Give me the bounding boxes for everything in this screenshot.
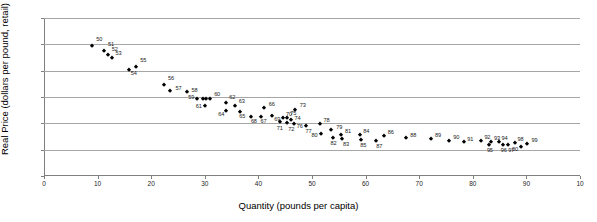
data-point <box>479 139 484 144</box>
data-point-label: 61 <box>196 104 202 110</box>
data-point-label: 79 <box>336 125 342 131</box>
data-point-label: 62 <box>229 95 235 101</box>
data-point-label: 96 <box>501 148 507 154</box>
x-tick-label: 80 <box>458 180 488 187</box>
data-point-label: 94 <box>502 136 508 142</box>
data-point <box>318 132 323 137</box>
x-tick-mark <box>526 176 527 179</box>
data-point-label: 54 <box>131 71 137 77</box>
data-point-label: 80 <box>312 133 318 139</box>
x-tick-label: 60 <box>351 180 381 187</box>
data-point-label: 00 <box>512 147 518 153</box>
data-point-label: 76 <box>297 124 303 130</box>
data-point-label: 85 <box>360 143 366 149</box>
data-point-label: 89 <box>435 133 441 139</box>
x-tick-label: 0 <box>29 180 59 187</box>
data-point <box>261 106 266 111</box>
data-point-label: 83 <box>343 142 349 148</box>
x-tick-mark <box>44 176 45 179</box>
x-tick-mark <box>419 176 420 179</box>
x-axis-title: Quantity (pounds per capita) <box>0 200 597 212</box>
data-point-label: 95 <box>487 148 493 154</box>
x-tick-mark <box>312 176 313 179</box>
data-point <box>447 138 452 143</box>
x-tick-label: 50 <box>297 180 327 187</box>
chart-canvas: Real Price (dollars per pound, retail) Q… <box>0 0 597 222</box>
gridline <box>44 44 580 45</box>
data-point <box>224 109 229 114</box>
data-point <box>329 128 334 133</box>
data-point <box>102 48 107 53</box>
data-point-label: 63 <box>239 99 245 105</box>
data-point-label: 65 <box>239 114 245 120</box>
data-point-label: 87 <box>376 144 382 150</box>
data-point-label: 81 <box>345 129 351 135</box>
data-point <box>429 136 434 141</box>
data-point-label: 56 <box>168 76 174 82</box>
data-point-label: 64 <box>218 112 224 118</box>
plot-area: 0.000.501.001.502.002.503.00 01020304050… <box>44 18 580 176</box>
data-point-label: 68 <box>251 119 257 125</box>
y-tick-mark <box>41 123 44 124</box>
gridline <box>44 123 580 124</box>
x-tick-label: 40 <box>243 180 273 187</box>
data-point <box>232 104 237 109</box>
y-tick-mark <box>41 18 44 19</box>
x-tick-label: 90 <box>511 180 541 187</box>
data-point-label: 74 <box>295 116 301 122</box>
data-point-label: 99 <box>531 138 537 144</box>
data-point-label: 57 <box>175 86 181 92</box>
gridline <box>44 18 580 19</box>
data-point-label: 59 <box>188 95 194 101</box>
data-point <box>462 140 467 145</box>
y-tick-mark <box>41 97 44 98</box>
data-point <box>404 136 409 141</box>
data-point <box>285 121 290 126</box>
x-tick-label: 10 <box>83 180 113 187</box>
data-point-label: 98 <box>518 137 524 143</box>
data-point <box>168 88 173 93</box>
x-tick-mark <box>473 176 474 179</box>
x-tick-mark <box>366 176 367 179</box>
data-point-label: 73 <box>300 103 306 109</box>
data-point <box>202 104 207 109</box>
data-point-label: 55 <box>140 58 146 64</box>
data-point-label: 88 <box>410 133 416 139</box>
data-point-label: 75 <box>290 111 296 117</box>
data-point <box>224 101 229 106</box>
x-tick-mark <box>98 176 99 179</box>
gridline <box>44 97 580 98</box>
data-point <box>109 56 114 61</box>
data-point-label: 86 <box>388 130 394 136</box>
x-tick-label: 20 <box>136 180 166 187</box>
gridline <box>44 150 580 151</box>
data-point <box>512 140 517 145</box>
data-point-label: 50 <box>96 37 102 43</box>
y-tick-mark <box>41 150 44 151</box>
data-point-label: 60 <box>214 92 220 98</box>
data-point-label: 71 <box>277 126 283 132</box>
x-tick-mark <box>580 176 581 179</box>
x-tick-mark <box>151 176 152 179</box>
data-point-label: 90 <box>453 135 459 141</box>
data-point <box>381 134 386 139</box>
data-point <box>200 97 205 102</box>
gridline <box>44 71 580 72</box>
data-point <box>134 65 139 70</box>
x-tick-label: 10 <box>565 180 595 187</box>
data-point <box>162 82 167 87</box>
y-tick-mark <box>41 44 44 45</box>
data-point-label: 84 <box>363 129 369 135</box>
data-point <box>317 121 322 126</box>
y-axis-title: Real Price (dollars per pound, retail) <box>0 0 12 158</box>
data-point-label: 53 <box>116 51 122 57</box>
data-point-label: 78 <box>324 118 330 124</box>
data-point-label: 72 <box>288 127 294 133</box>
data-point-label: 91 <box>467 137 473 143</box>
data-point-label: 67 <box>261 119 267 125</box>
data-point <box>525 141 530 146</box>
x-tick-mark <box>205 176 206 179</box>
data-point-label: 58 <box>192 88 198 94</box>
x-tick-mark <box>258 176 259 179</box>
x-tick-label: 30 <box>190 180 220 187</box>
